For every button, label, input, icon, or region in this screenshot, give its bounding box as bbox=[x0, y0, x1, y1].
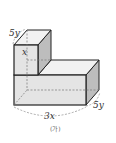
solid-figure: 5y x 5y 3x (가) bbox=[0, 0, 116, 143]
label-cube-depth: 5y bbox=[9, 28, 21, 38]
caption: (가) bbox=[50, 125, 61, 133]
label-cube-width: x bbox=[22, 47, 27, 57]
label-box-width: 3x bbox=[44, 111, 55, 121]
label-box-depth: 5y bbox=[93, 100, 105, 110]
